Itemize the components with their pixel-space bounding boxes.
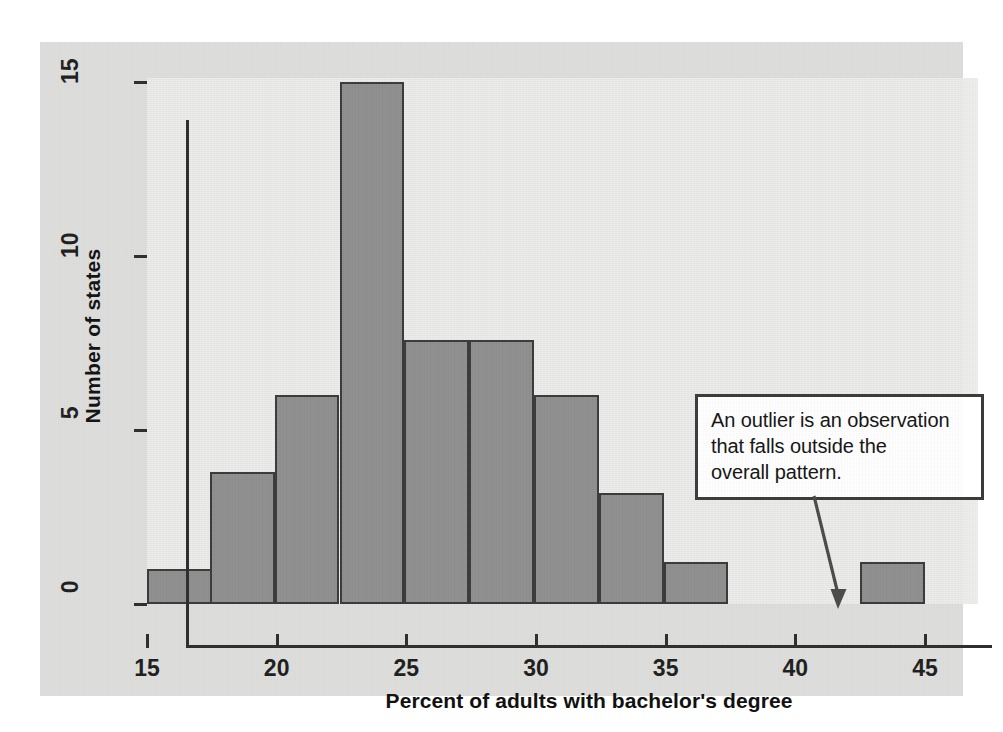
histogram-bar bbox=[147, 569, 212, 604]
x-axis-tick bbox=[276, 634, 279, 648]
figure-panel: 051015 15202530354045 Number of states P… bbox=[40, 42, 963, 696]
y-axis-tick bbox=[134, 81, 147, 84]
x-axis-tick-label: 40 bbox=[765, 655, 825, 682]
x-axis-tick-label: 45 bbox=[895, 655, 955, 682]
y-axis-tick-label: 15 bbox=[57, 59, 84, 103]
y-axis-tick-label: 5 bbox=[57, 407, 84, 451]
histogram-bar bbox=[534, 395, 599, 604]
outlier-annotation-callout: An outlier is an observation that falls … bbox=[695, 394, 984, 500]
y-axis-tick bbox=[134, 603, 147, 606]
y-axis-tick-label: 0 bbox=[57, 581, 84, 625]
histogram-bar bbox=[599, 493, 664, 604]
x-axis-tick-label: 35 bbox=[636, 655, 696, 682]
annotation-line-3: overall pattern. bbox=[711, 459, 968, 485]
x-axis-tick-label: 25 bbox=[376, 655, 436, 682]
histogram-bar bbox=[469, 340, 534, 604]
histogram-bar bbox=[210, 472, 275, 604]
histogram-bar bbox=[664, 562, 729, 604]
x-axis-tick bbox=[794, 634, 797, 648]
histogram-bar bbox=[340, 82, 405, 604]
y-axis-tick-label: 10 bbox=[57, 233, 84, 277]
x-axis-tick-label: 20 bbox=[247, 655, 307, 682]
y-axis-tick bbox=[134, 429, 147, 432]
x-axis-tick-label: 15 bbox=[117, 655, 177, 682]
annotation-line-2: that falls outside the bbox=[711, 433, 968, 459]
y-axis-tick bbox=[134, 255, 147, 258]
x-axis-title: Percent of adults with bachelor's degree bbox=[186, 689, 992, 713]
x-axis-tick bbox=[535, 634, 538, 648]
histogram-bar bbox=[404, 340, 469, 604]
x-axis-tick-label: 30 bbox=[506, 655, 566, 682]
annotation-line-1: An outlier is an observation bbox=[711, 407, 968, 433]
annotation-arrow-icon bbox=[810, 494, 940, 619]
y-axis-title: Number of states bbox=[81, 221, 105, 451]
x-axis-tick bbox=[405, 634, 408, 648]
histogram-bar bbox=[275, 395, 340, 604]
y-axis-line bbox=[186, 120, 189, 648]
x-axis-line bbox=[186, 645, 992, 648]
x-axis-tick bbox=[146, 634, 149, 648]
x-axis-tick bbox=[924, 634, 927, 648]
x-axis-tick bbox=[665, 634, 668, 648]
